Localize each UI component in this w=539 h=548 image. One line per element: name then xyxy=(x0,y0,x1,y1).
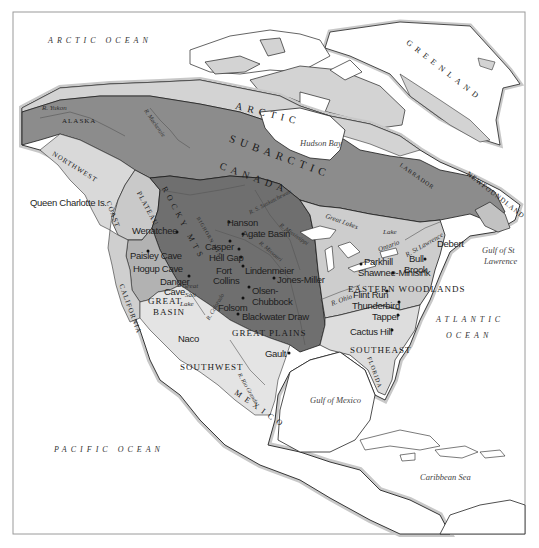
ocean-label: PACIFIC OCEAN xyxy=(54,445,164,454)
site-label: Hanson xyxy=(227,217,258,228)
lake-label: Lake xyxy=(180,300,194,308)
region-label: GREAT xyxy=(148,296,182,306)
sea-label: Gulf of Mexico xyxy=(310,395,361,405)
site-label: Chubbock xyxy=(252,296,292,307)
south-america-coast xyxy=(440,500,525,534)
region-label: ALASKA xyxy=(62,117,96,125)
site-label: Cactus Hill xyxy=(350,326,392,337)
ocean-label: OCEAN xyxy=(446,331,492,340)
site-label: Blackwater Draw xyxy=(242,311,309,322)
region-label: SOUTHEAST xyxy=(350,345,412,355)
site-label: Jones-Miller xyxy=(277,274,325,285)
site-label: Cave xyxy=(164,286,185,297)
site-label: Flint Run xyxy=(353,289,388,300)
site-label: Thunderbird xyxy=(352,300,400,311)
region-label: SOUTHWEST xyxy=(180,362,244,372)
site-label: Paisley Cave xyxy=(130,250,182,261)
site-label: Agate Basin xyxy=(242,228,290,239)
site-label: Casper xyxy=(205,241,234,252)
ocean-label: ARCTIC OCEAN xyxy=(48,36,152,45)
site-label: Wenatchee xyxy=(132,225,177,236)
sea-label: Gulf of St xyxy=(482,245,515,255)
sea-label: Hudson Bay xyxy=(300,138,342,148)
site-label: Tapper xyxy=(372,311,399,322)
site-label: Parkhill xyxy=(364,256,393,267)
ocean-label: ATLANTIC xyxy=(436,315,504,324)
region-label: BASIN xyxy=(153,307,185,317)
site-label: Collins xyxy=(213,275,239,286)
river-label: R. Yukon xyxy=(42,104,67,112)
site-label: Hell Gap xyxy=(209,252,244,263)
caribbean-islands xyxy=(360,430,505,461)
region-label: GREAT PLAINS xyxy=(232,328,307,338)
site-label: Debert xyxy=(437,238,464,249)
lake-label: Lake xyxy=(383,228,397,236)
sea-label: Caribbean Sea xyxy=(420,472,471,482)
site-label: Gault xyxy=(265,348,286,359)
island-label: Queen Charlotte Is. xyxy=(30,197,107,208)
site-label: Bull xyxy=(409,253,424,264)
site-label: Olsen- xyxy=(252,285,278,296)
site-label: Brook xyxy=(404,264,427,275)
site-label: Naco xyxy=(178,333,199,344)
lake-label: Salt xyxy=(185,291,196,299)
site-label: Hogup Cave xyxy=(133,263,183,274)
sea-label: Lawrence xyxy=(484,256,517,266)
